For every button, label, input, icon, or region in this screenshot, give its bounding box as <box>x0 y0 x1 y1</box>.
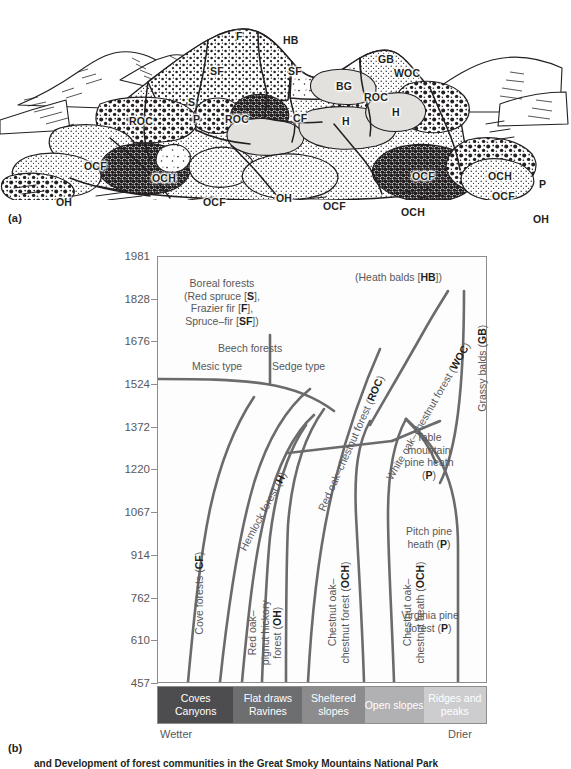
gradient-segment-line1: Coves <box>181 692 211 705</box>
gradient-segment-sheltered: Shelteredslopes <box>302 687 364 723</box>
y-tick-label-1372: 1372 <box>104 421 150 433</box>
heath-balds-label: (Heath balds [HB]) <box>355 271 442 284</box>
gradient-segment-line2: Ravines <box>249 705 287 718</box>
y-tick-label-1067: 1067 <box>104 506 150 518</box>
y-tick-label-1220: 1220 <box>104 463 150 475</box>
y-tick-label-762: 762 <box>104 592 150 604</box>
y-tick-label-914: 914 <box>104 549 150 561</box>
y-tick-label-610: 610 <box>104 634 150 646</box>
y-tick-label-1828: 1828 <box>104 293 150 305</box>
gradient-segment-line2: Canyons <box>175 705 216 718</box>
wetter-label: Wetter <box>160 728 192 740</box>
beech-mesic-type-label: Mesic type <box>192 360 242 373</box>
beech-forests-label: Beech forests <box>218 342 282 355</box>
y-tick-label-1524: 1524 <box>104 378 150 390</box>
plot-area: Boreal forests (Red spruce [S], Frazier … <box>157 256 487 683</box>
landscape-svg <box>0 0 571 200</box>
boreal-forests-label: Boreal forests (Red spruce [S], Frazier … <box>184 277 260 327</box>
y-tick-label-457: 457 <box>104 677 150 689</box>
virginia-pine-forest-label: Virginia pine forest (P) <box>391 609 469 634</box>
terrain-label-och-22: OCH <box>401 206 425 218</box>
gradient-segment-line2: peaks <box>441 705 469 718</box>
terrain-label-ocf-20: OCF <box>323 200 346 212</box>
cove-forests-label: Cove forests (CF) <box>193 533 206 653</box>
gradient-segment-open-slopes: Open slopes <box>365 687 424 723</box>
beech-sedge-type-label: Sedge type <box>272 360 325 373</box>
y-tick-mark-457 <box>151 683 158 684</box>
gradient-segment-flat-draws: Flat drawsRavines <box>233 687 302 723</box>
landscape-illustration: FHBSFSFGBWOCBGROCSROCPROCCFHHOCFOCHOHOCF… <box>0 0 571 200</box>
y-tick-label-1981: 1981 <box>104 250 150 262</box>
grassy-balds-label: Grassy balds (GB) <box>476 303 489 433</box>
y-tick-label-1676: 1676 <box>104 335 150 347</box>
terrain-label-oh-26: OH <box>533 213 549 225</box>
gradient-segment-line2: slopes <box>318 705 348 718</box>
table-mountain-pine-heath-label: Table mountain pine heath (P) <box>395 431 463 481</box>
gradient-segment-line1: Sheltered <box>311 692 356 705</box>
chestnut-oak-chestnut-forest-label: Chestnut oak– chestnut forest (OCH) <box>326 528 351 698</box>
gradient-segment-line1: Ridges and <box>428 692 481 705</box>
gradient-segment-ridges-and: Ridges andpeaks <box>424 687 486 723</box>
red-oak-pignut-hickory-label: Red oak– pignut hickory forest (OH) <box>246 580 284 686</box>
gradient-segment-line1: Open slopes <box>365 699 424 712</box>
figure-caption: and Development of forest communities in… <box>34 758 564 769</box>
pitch-pine-heath-label: Pitch pine heath (P) <box>393 525 465 550</box>
gradient-segment-coves: CovesCanyons <box>158 687 233 723</box>
panel-a-label: (a) <box>8 212 22 224</box>
drier-label: Drier <box>448 728 472 740</box>
panel-b-label: (b) <box>8 742 22 754</box>
topography-gradient-bar: CovesCanyonsFlat drawsRavinesShelteredsl… <box>157 686 487 724</box>
gradient-segment-line1: Flat draws <box>244 692 292 705</box>
